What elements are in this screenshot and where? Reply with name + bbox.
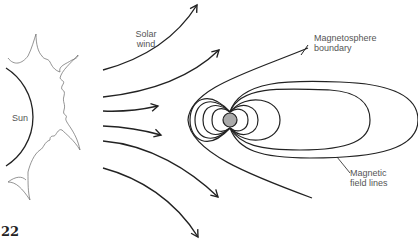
- solar-wind-label-line2: wind: [131, 39, 161, 49]
- magnetosphere-boundary: [188, 48, 312, 198]
- field-lines-label-line1: Magnetic: [350, 168, 388, 178]
- field-lines-leader-line: [337, 157, 350, 173]
- magnetosphere-boundary-label: Magnetosphere boundary: [314, 33, 377, 53]
- magnetic-field-lines-label: Magnetic field lines: [350, 168, 388, 188]
- earth: [223, 113, 237, 127]
- solar-wind-label-line1: Solar: [131, 29, 161, 39]
- field-lines-label-line2: field lines: [350, 178, 388, 188]
- page-number: 22: [1, 224, 19, 239]
- magnetosphere-label-line2: boundary: [314, 43, 377, 53]
- magnetosphere-label-line1: Magnetosphere: [314, 33, 377, 43]
- solar-wind-label: Solar wind: [131, 29, 161, 49]
- sun-label: Sun: [12, 113, 28, 123]
- solar-wind-arrows: [103, 5, 219, 237]
